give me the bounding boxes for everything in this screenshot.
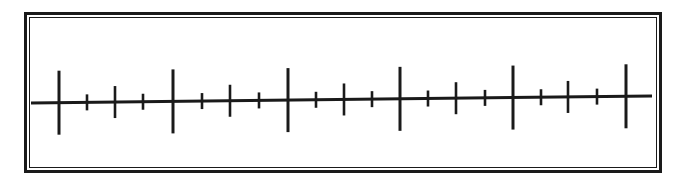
axis-line — [31, 96, 652, 103]
number-line — [0, 0, 677, 185]
